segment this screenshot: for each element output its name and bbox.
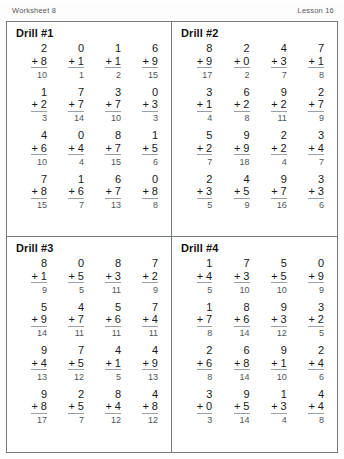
addition-problem: 9+ 817 (15, 388, 52, 427)
answer-value: 18 (239, 155, 249, 168)
first-addend: 6 (243, 344, 249, 357)
addition-problem: 1+ 12 (89, 42, 126, 81)
second-addend: + 6 (105, 313, 121, 327)
second-addend: + 7 (308, 98, 324, 112)
second-addend: + 2 (271, 98, 287, 112)
addition-problem: 8+ 614 (217, 301, 254, 340)
answer-value: 8 (319, 414, 324, 427)
answer-value: 3 (42, 112, 47, 125)
first-addend: 2 (206, 173, 212, 186)
addition-problem: 0+ 55 (52, 257, 89, 296)
addition-problem: 7+ 310 (217, 257, 254, 296)
first-addend: 0 (78, 257, 84, 270)
second-addend: + 9 (31, 313, 47, 327)
drill-panel-4: Drill #4 1+ 457+ 3105+ 5100+ 991+ 788+ 6… (172, 237, 337, 452)
answer-value: 4 (207, 112, 212, 125)
answer-value: 2 (244, 68, 249, 81)
answer-value: 10 (111, 112, 121, 125)
first-addend: 7 (41, 173, 47, 186)
second-addend: + 1 (105, 55, 121, 69)
second-addend: + 5 (142, 142, 158, 156)
first-addend: 1 (78, 173, 84, 186)
problem-row: 9+ 4137+ 5124+ 154+ 913 (15, 344, 163, 383)
first-addend: 3 (318, 301, 324, 314)
problem-blocks: 8+ 190+ 558+ 3117+ 295+ 9144+ 7115+ 6117… (15, 257, 163, 426)
second-addend: + 7 (105, 142, 121, 156)
second-addend: + 1 (31, 270, 47, 284)
answer-value: 1 (79, 68, 84, 81)
second-addend: + 8 (234, 357, 250, 371)
first-addend: 4 (243, 173, 249, 186)
addition-problem: 1+ 23 (15, 86, 52, 125)
first-addend: 3 (318, 173, 324, 186)
second-addend: + 0 (197, 400, 213, 414)
addition-problem: 4+ 37 (255, 42, 292, 81)
second-addend: + 7 (105, 98, 121, 112)
answer-value: 5 (79, 283, 84, 296)
addition-problem: 6+ 915 (126, 42, 163, 81)
answer-value: 4 (79, 155, 84, 168)
answer-value: 14 (74, 112, 84, 125)
first-addend: 4 (152, 344, 158, 357)
second-addend: + 9 (197, 55, 213, 69)
second-addend: + 4 (68, 142, 84, 156)
second-addend: + 7 (271, 185, 287, 199)
addition-problem: 3+ 710 (89, 86, 126, 125)
first-addend: 3 (206, 388, 212, 401)
problem-row: 9+ 8172+ 578+ 4124+ 812 (15, 388, 163, 427)
addition-problem: 7+ 512 (52, 344, 89, 383)
answer-value: 4 (282, 155, 287, 168)
second-addend: + 5 (68, 400, 84, 414)
addition-problem: 0+ 88 (126, 173, 163, 212)
second-addend: + 8 (31, 400, 47, 414)
answer-value: 10 (277, 370, 287, 383)
second-addend: + 3 (271, 313, 287, 327)
first-addend: 2 (318, 344, 324, 357)
first-addend: 7 (78, 344, 84, 357)
answer-value: 5 (116, 370, 121, 383)
drill-grid: Drill #1 2+ 8100+ 111+ 126+ 9151+ 237+ 7… (6, 21, 338, 453)
first-addend: 8 (115, 129, 121, 142)
addition-problem: 7+ 29 (126, 257, 163, 296)
addition-problem: 6+ 713 (89, 173, 126, 212)
answer-value: 8 (207, 327, 212, 340)
second-addend: + 0 (234, 55, 250, 69)
first-addend: 2 (281, 129, 287, 142)
answer-value: 10 (277, 283, 287, 296)
answer-value: 2 (116, 68, 121, 81)
answer-value: 9 (244, 199, 249, 212)
second-addend: + 4 (308, 357, 324, 371)
first-addend: 1 (152, 129, 158, 142)
addition-problem: 9+ 918 (217, 129, 254, 168)
answer-value: 8 (207, 370, 212, 383)
addition-problem: 9+ 110 (255, 344, 292, 383)
drill-title: Drill #3 (16, 242, 163, 255)
second-addend: + 8 (31, 55, 47, 69)
addition-problem: 4+ 59 (217, 173, 254, 212)
answer-value: 11 (112, 327, 121, 340)
first-addend: 0 (152, 173, 158, 186)
second-addend: + 7 (197, 313, 213, 327)
second-addend: + 6 (68, 185, 84, 199)
answer-value: 6 (319, 199, 324, 212)
addition-problem: 8+ 715 (89, 129, 126, 168)
addition-problem: 4+ 711 (52, 301, 89, 340)
problem-row: 3+ 146+ 289+ 2112+ 79 (180, 86, 329, 125)
worksheet-page: Worksheet 8 Lesson 16 Drill #1 2+ 8100+ … (0, 2, 344, 459)
answer-value: 6 (319, 370, 324, 383)
addition-problem: 9+ 211 (255, 86, 292, 125)
addition-problem: 7+ 714 (52, 86, 89, 125)
first-addend: 8 (41, 257, 47, 270)
second-addend: + 6 (31, 142, 47, 156)
second-addend: + 1 (308, 55, 324, 69)
answer-value: 15 (148, 68, 158, 81)
addition-problem: 2+ 68 (180, 344, 217, 383)
answer-value: 14 (37, 327, 47, 340)
answer-value: 9 (153, 283, 158, 296)
second-addend: + 1 (105, 357, 121, 371)
first-addend: 3 (318, 129, 324, 142)
first-addend: 9 (281, 86, 287, 99)
second-addend: + 6 (234, 313, 250, 327)
answer-value: 6 (153, 155, 158, 168)
answer-value: 16 (277, 199, 287, 212)
